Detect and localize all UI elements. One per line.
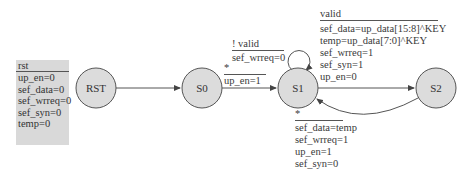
s1-s2-action: sef_data=up_data[15:8]^KEY [320, 23, 446, 35]
s1-s2-action: temp=up_data[7:0]^KEY [320, 35, 427, 47]
s1-s2-action: sef_syn=1 [320, 59, 363, 71]
s1-s2-action: sef_wrreq=1 [320, 47, 373, 59]
state-s2: S2 [416, 68, 456, 108]
state-s1: S1 [278, 68, 318, 108]
s1-self-condition: ! valid [232, 38, 284, 51]
edge-s1-self [288, 51, 310, 70]
s2-s1-condition: * [295, 108, 343, 121]
state-label: S0 [196, 82, 208, 94]
s2-s1-action: up_en=1 [295, 146, 332, 158]
s2-s1-action: sef_data=temp [295, 122, 357, 134]
state-label: S1 [292, 82, 304, 94]
state-label: RST [86, 82, 106, 94]
s1-self-action: sef_wrreq=0 [232, 52, 285, 64]
s2-s1-action: sef_syn=0 [295, 158, 338, 170]
s1-s2-action: up_en=0 [320, 71, 357, 83]
state-label: S2 [430, 82, 442, 94]
state-rst: RST [76, 68, 116, 108]
s1-s2-condition: valid [320, 8, 438, 21]
state-s0: S0 [182, 68, 222, 108]
s0-s1-action: up_en=1 [224, 75, 261, 87]
s2-s1-action: sef_wrreq=1 [295, 134, 348, 146]
